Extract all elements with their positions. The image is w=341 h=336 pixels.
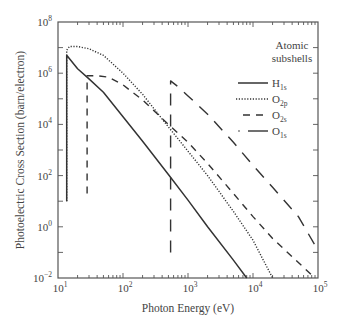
data-curves xyxy=(67,47,318,279)
legend-label: H1s xyxy=(272,77,287,92)
y-tick-label: 10−2 xyxy=(33,270,52,284)
y-tick-label: 108 xyxy=(37,14,52,28)
curve-h1s xyxy=(67,55,247,278)
legend-title-line1: Atomic xyxy=(276,39,309,51)
x-axis-label: Photon Energy (eV) xyxy=(142,302,235,315)
curve-o2p xyxy=(67,47,273,279)
y-axis-label: Photoelectric Cross Section (barn/electr… xyxy=(14,51,27,249)
y-tick-label: 100 xyxy=(37,219,52,233)
x-tick-label: 101 xyxy=(53,280,68,294)
legend: Atomic subshells H1sO2pO2sO1s xyxy=(236,39,312,140)
legend-label: O2s xyxy=(272,109,287,124)
legend-label: O1s xyxy=(272,125,287,140)
y-tick-label: 102 xyxy=(37,168,52,182)
y-tick-labels: 10810610410210010−2 xyxy=(33,14,52,284)
legend-label: O2p xyxy=(272,93,288,108)
x-tick-label: 104 xyxy=(248,280,263,294)
y-tick-label: 104 xyxy=(37,116,52,130)
y-tick-label: 106 xyxy=(37,65,52,79)
x-tick-label: 103 xyxy=(183,280,198,294)
photoelectric-cross-section-chart: 10810610410210010−2 101102103104105 Phot… xyxy=(0,0,341,336)
x-tick-label: 102 xyxy=(118,280,133,294)
curve-o1s xyxy=(171,81,318,253)
legend-title-line2: subshells xyxy=(272,52,312,64)
x-tick-label: 105 xyxy=(313,280,328,294)
x-tick-labels: 101102103104105 xyxy=(53,280,328,294)
